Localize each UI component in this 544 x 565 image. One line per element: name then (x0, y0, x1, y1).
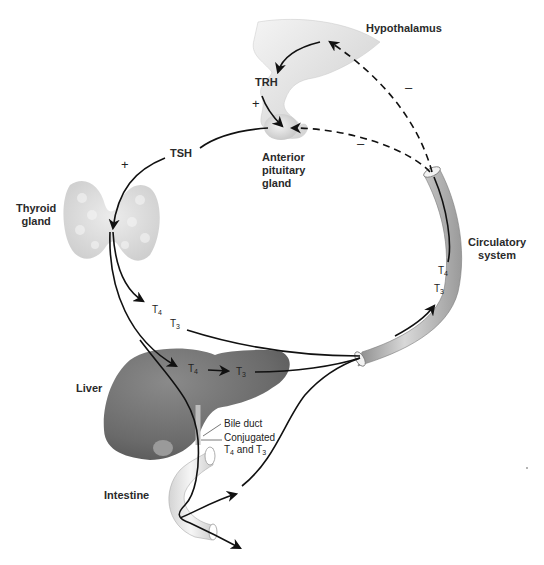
sign-plus-tsh: + (121, 157, 129, 172)
label-trh: TRH (255, 76, 278, 89)
label-anterior-pituitary: Anterior pituitary gland (262, 151, 305, 190)
thyroid-gland-shape (63, 181, 159, 261)
sign-minus-hypothalamus: – (405, 80, 412, 95)
label-conjugated-line2: T4 and T3 (224, 444, 275, 459)
label-conjugated-line1: Conjugated (224, 432, 275, 444)
intestine-to-vessel-arrow (180, 494, 236, 518)
label-thyroid-gland: Thyroid gland (16, 202, 56, 228)
label-circulatory-line2: system (468, 249, 526, 262)
label-hypothalamus: Hypothalamus (366, 22, 442, 35)
label-bile-duct: Bile duct (224, 418, 262, 430)
label-anterior-line3: gland (262, 177, 305, 190)
label-intestine: Intestine (104, 489, 149, 502)
label-anterior-line2: pituitary (262, 164, 305, 177)
thyroid-regulation-diagram: Hypothalamus TRH + Anterior pituitary gl… (0, 0, 544, 565)
stray-dot (526, 467, 528, 469)
thyroid-t4-label: T4 (152, 304, 162, 316)
label-conjugated: Conjugated T4 and T3 (224, 432, 275, 459)
anterior-pituitary-shape (264, 114, 298, 140)
liver-t4-t3-arrow (208, 370, 228, 371)
label-anterior-line1: Anterior (262, 151, 305, 164)
leader-lines (201, 424, 222, 440)
label-liver: Liver (76, 382, 102, 395)
thyroid-t3-label: T3 (170, 318, 180, 330)
sign-minus-pituitary: – (357, 136, 364, 151)
label-thyroid-line2: gland (16, 215, 56, 228)
sign-plus-trh: + (252, 96, 260, 111)
label-circulatory-system: Circulatory system (468, 236, 526, 262)
liver-t4-label: T4 (188, 363, 198, 375)
liver-t3-label: T3 (236, 366, 246, 378)
vessel-t4-label: T4 (438, 265, 448, 277)
pituitary-to-tsh-line (200, 128, 268, 148)
label-thyroid-line1: Thyroid (16, 202, 56, 215)
label-tsh: TSH (170, 147, 192, 160)
vessel-t3-label: T3 (434, 283, 444, 295)
label-circulatory-line1: Circulatory (468, 236, 526, 249)
